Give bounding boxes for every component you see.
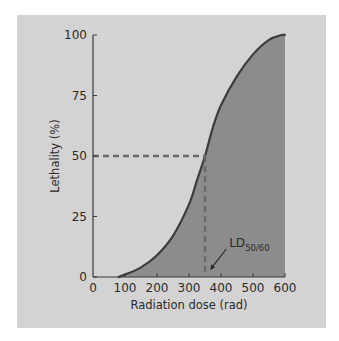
- y-tick-label: 25: [72, 210, 87, 224]
- x-tick-label: 200: [146, 281, 169, 295]
- x-tick-label: 400: [210, 281, 233, 295]
- y-ticks: 0255075100: [64, 28, 97, 284]
- y-tick-label: 0: [79, 270, 87, 284]
- x-axis-title: Radiation dose (rad): [130, 298, 247, 312]
- y-tick-label: 75: [72, 89, 87, 103]
- ld50-label-main: LD: [229, 236, 245, 250]
- y-axis-title: Lethality (%): [48, 119, 62, 192]
- x-tick-label: 300: [178, 281, 201, 295]
- ld50-label-subscript: 50/60: [245, 243, 270, 253]
- y-tick-label: 100: [64, 28, 87, 42]
- x-tick-label: 100: [114, 281, 137, 295]
- x-tick-label: 600: [274, 281, 297, 295]
- x-tick-label: 500: [242, 281, 265, 295]
- y-tick-label: 50: [72, 149, 87, 163]
- x-tick-label: 0: [89, 281, 97, 295]
- lethality-chart: 0100200300400500600 0255075100 Radiation…: [0, 0, 339, 341]
